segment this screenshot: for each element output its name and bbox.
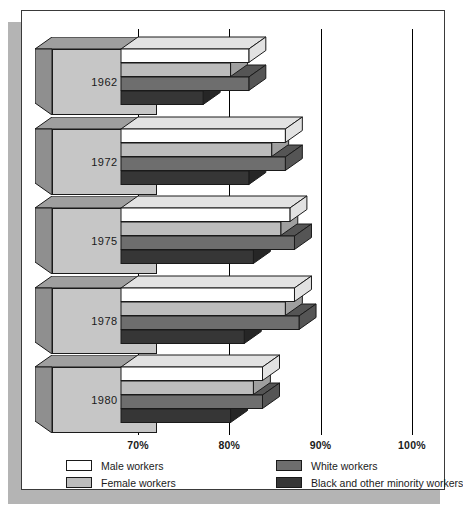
bar-1978-male-workers (121, 276, 311, 302)
chart-plot-area: 19621972197519781980 70%80%90%100% (22, 11, 446, 491)
bar-1980-male-workers (121, 355, 280, 381)
bar-1972-male-workers (121, 117, 302, 143)
gridline-100 (412, 29, 413, 435)
legend-swatch-icon (276, 460, 302, 471)
tick-label-80: 80% (199, 439, 259, 451)
legend-label: Black and other minority workers (311, 477, 463, 489)
legend-item-black-and-other-minority-workers: Black and other minority workers (276, 474, 463, 491)
chart-legend: Male workersFemale workersWhite workersB… (66, 457, 446, 493)
legend-swatch-icon (66, 460, 92, 471)
bar-3d-faces (121, 37, 266, 63)
legend-item-female-workers: Female workers (66, 474, 176, 491)
legend-label: Female workers (101, 477, 176, 489)
bar-1962-male-workers (121, 37, 266, 63)
bar-3d-faces (121, 355, 280, 381)
legend-swatch-icon (66, 477, 92, 488)
tick-label-100: 100% (382, 439, 442, 451)
legend-item-white-workers: White workers (276, 457, 463, 474)
legend-label: Male workers (101, 460, 163, 472)
legend-column-2: White workersBlack and other minority wo… (276, 457, 463, 491)
tick-label-70: 70% (108, 439, 168, 451)
legend-label: White workers (311, 460, 378, 472)
bar-3d-faces (121, 117, 302, 143)
tick-label-90: 90% (291, 439, 351, 451)
bar-3d-faces (121, 276, 311, 302)
legend-item-male-workers: Male workers (66, 457, 176, 474)
chart-card: 19621972197519781980 70%80%90%100% Male … (21, 10, 445, 490)
legend-column-1: Male workersFemale workers (66, 457, 176, 491)
bar-1975-male-workers (121, 196, 307, 222)
bar-3d-faces (121, 196, 307, 222)
legend-swatch-icon (276, 477, 302, 488)
gridline-90 (321, 29, 322, 435)
